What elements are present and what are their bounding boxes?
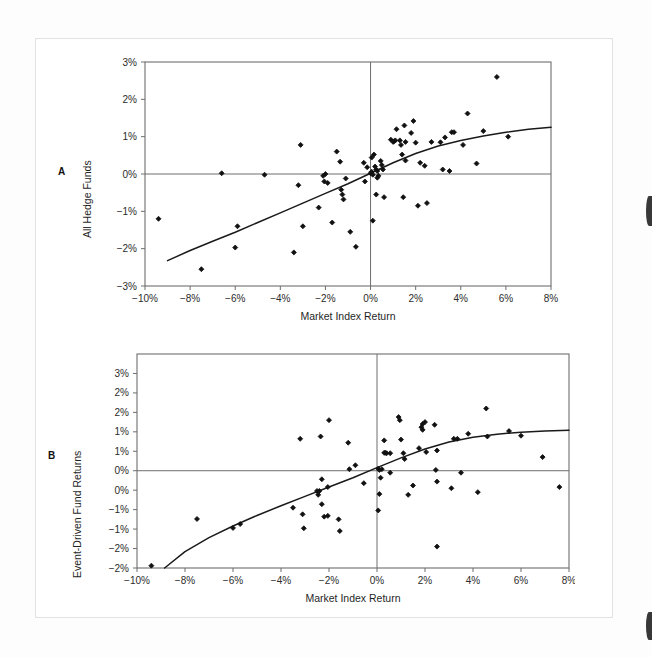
data-point <box>465 111 470 116</box>
data-point <box>327 418 332 423</box>
data-point <box>433 467 438 472</box>
data-point <box>319 477 324 482</box>
data-point <box>361 481 366 486</box>
data-point <box>300 512 305 517</box>
data-point <box>475 490 480 495</box>
y-tick-label: 0% <box>115 465 130 476</box>
data-point <box>362 179 367 184</box>
data-point <box>291 505 296 510</box>
x-tick-label: −6% <box>225 293 245 304</box>
x-tick-label: −2% <box>319 575 339 586</box>
panel-b-label: B <box>48 450 55 461</box>
data-point <box>195 516 200 521</box>
data-point <box>365 165 370 170</box>
data-point <box>298 436 303 441</box>
data-point <box>394 127 399 132</box>
x-tick-label: −4% <box>271 575 291 586</box>
data-point <box>442 135 447 140</box>
data-point <box>341 197 346 202</box>
data-point <box>494 74 499 79</box>
data-point <box>219 171 224 176</box>
y-tick-label: −2% <box>117 243 137 254</box>
x-tick-label: −8% <box>175 575 195 586</box>
data-point <box>378 475 383 480</box>
data-point <box>334 149 339 154</box>
data-point <box>346 440 351 445</box>
page-edge-artifact-bottom <box>646 612 652 640</box>
data-point <box>374 192 379 197</box>
chart-b-figure: B Event-Driven Fund Returns −10%−8%−6%−4… <box>45 340 575 610</box>
regression-curve <box>165 430 569 568</box>
data-point <box>330 220 335 225</box>
data-point <box>424 201 429 206</box>
y-tick-label: 3% <box>123 57 138 68</box>
page-canvas: A All Hedge Funds −10%−8%−6%−4%−2%0%2%4%… <box>0 0 652 657</box>
chart-b-ylabel: Event-Driven Fund Returns <box>71 451 83 578</box>
data-point <box>409 130 414 135</box>
data-point <box>435 479 440 484</box>
data-point <box>435 448 440 453</box>
data-point <box>397 138 402 143</box>
x-tick-label: 2% <box>408 293 423 304</box>
data-point <box>413 140 418 145</box>
data-point <box>424 450 429 455</box>
data-point <box>466 431 471 436</box>
data-point <box>353 463 358 468</box>
x-tick-label: 4% <box>454 293 469 304</box>
chart-a-ylabel: All Hedge Funds <box>81 160 93 238</box>
data-point <box>506 134 511 139</box>
x-axis-title: Market Index Return <box>300 310 395 322</box>
x-tick-label: 2% <box>418 575 433 586</box>
y-tick-label: 1% <box>123 131 138 142</box>
data-point <box>438 140 443 145</box>
x-tick-label: 8% <box>544 293 559 304</box>
y-tick-label: −1% <box>117 206 137 217</box>
data-point <box>340 192 345 197</box>
data-point <box>316 205 321 210</box>
data-point <box>338 159 343 164</box>
y-tick-label: 1% <box>115 426 130 437</box>
data-point <box>382 438 387 443</box>
data-point <box>348 229 353 234</box>
x-tick-label: −6% <box>223 575 243 586</box>
data-point <box>401 451 406 456</box>
y-tick-label: −1% <box>109 504 129 515</box>
data-point <box>361 160 366 165</box>
data-point <box>298 142 303 147</box>
data-point <box>418 160 423 165</box>
data-point <box>411 118 416 123</box>
data-point <box>440 167 445 172</box>
data-point <box>429 139 434 144</box>
data-point <box>343 176 348 181</box>
data-point <box>301 526 306 531</box>
chart-b-plot: −10%−8%−6%−4%−2%0%2%4%6%8%−2%−2%−1%−1%0%… <box>45 340 575 610</box>
y-tick-label: 2% <box>123 94 138 105</box>
regression-curve <box>168 127 551 260</box>
data-point <box>300 224 305 229</box>
y-tick-label: 0% <box>123 169 138 180</box>
data-point <box>406 492 411 497</box>
data-point <box>353 244 358 249</box>
x-tick-label: 0% <box>363 293 378 304</box>
data-point <box>399 142 404 147</box>
data-point <box>370 218 375 223</box>
data-point <box>402 123 407 128</box>
y-tick-label: 2% <box>115 407 130 418</box>
data-point <box>149 563 154 568</box>
page-edge-artifact-top <box>646 196 652 226</box>
data-point <box>484 406 489 411</box>
data-point <box>337 529 342 534</box>
data-point <box>156 216 161 221</box>
y-tick-label: 1% <box>115 446 130 457</box>
data-point <box>403 139 408 144</box>
data-point <box>296 183 301 188</box>
y-tick-label: 2% <box>115 387 130 398</box>
data-point <box>382 195 387 200</box>
y-tick-label: 0% <box>115 485 130 496</box>
data-point <box>235 224 240 229</box>
data-point <box>557 485 562 490</box>
x-tick-label: 4% <box>466 575 481 586</box>
x-tick-label: 6% <box>499 293 514 304</box>
data-point <box>199 267 204 272</box>
data-point <box>415 203 420 208</box>
